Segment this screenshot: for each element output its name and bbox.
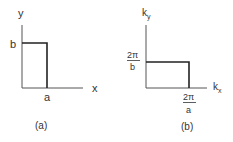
height-label-b: b <box>10 38 16 50</box>
x-axis-label: x <box>92 82 98 94</box>
diagram-canvas: y b a x (a) ky 2π b 2π a kx (b) <box>0 0 233 142</box>
width-label-numerator: 2π <box>183 92 194 102</box>
reciprocal-rectangle-outline <box>146 62 189 88</box>
height-label-numerator: 2π <box>127 50 138 60</box>
panel-b-caption: (b) <box>181 121 193 132</box>
panel-b: ky 2π b 2π a kx (b) <box>127 7 222 132</box>
y-axis-label: y <box>18 7 24 19</box>
panel-a-caption: (a) <box>35 120 47 131</box>
width-label-a: a <box>44 91 51 103</box>
height-label-denominator: b <box>130 62 135 72</box>
kx-axis-label: kx <box>213 81 222 94</box>
width-label-denominator: a <box>186 105 191 115</box>
panel-a: y b a x (a) <box>10 7 98 131</box>
ky-axis-label: ky <box>142 7 151 21</box>
rectangle-outline <box>22 43 47 88</box>
